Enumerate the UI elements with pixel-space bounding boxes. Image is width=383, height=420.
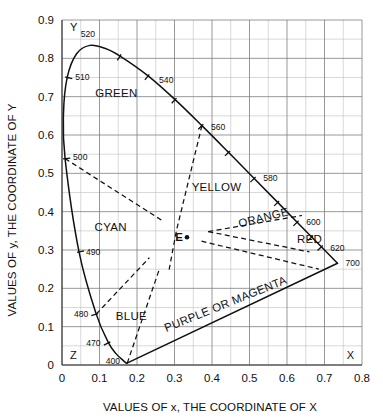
y-tick-label: 0.2 — [38, 282, 54, 294]
wavelength-label-480: 480 — [74, 309, 89, 319]
wavelength-label-400: 400 — [106, 356, 121, 366]
white-point-dot — [185, 235, 190, 240]
orange-red-divider — [208, 232, 309, 252]
wavelength-label-490: 490 — [86, 247, 101, 257]
x-tick-label: 0.3 — [167, 372, 183, 384]
corner-label-x: X — [347, 349, 355, 361]
wavelength-label-580: 580 — [263, 173, 278, 183]
corner-label-y: Y — [70, 21, 78, 33]
y-tick-label: 0.7 — [38, 91, 54, 103]
wavelength-label-500: 500 — [73, 152, 88, 162]
region-label-blue: BLUE — [116, 310, 147, 322]
region-label-cyan: CYAN — [95, 221, 127, 233]
region-label-magenta: PURPLE OR MAGENTA — [163, 274, 289, 334]
wavelength-label-520: 520 — [81, 29, 96, 39]
y-tick-label: 0.1 — [38, 321, 54, 333]
wavelength-label-470: 470 — [86, 338, 101, 348]
wavelength-tick-500 — [63, 158, 70, 159]
x-tick-label: 0.7 — [317, 372, 333, 384]
chromaticity-diagram-svg: 00.10.20.30.40.50.60.70.8 00.10.20.30.40… — [0, 0, 383, 420]
x-axis-title: VALUES OF x, THE COORDINATE OF X — [103, 401, 317, 413]
x-tick-label: 0.5 — [242, 372, 258, 384]
color-region-labels: GREENCYANBLUEYELLOWORANGEREDPURPLE OR MA… — [95, 87, 323, 334]
green-yellow-divider — [169, 126, 202, 271]
x-tick-label: 0.4 — [204, 372, 221, 384]
y-tick-label: 0.4 — [38, 206, 55, 218]
region-label-green: GREEN — [95, 87, 137, 99]
x-axis-tick-labels: 00.10.20.30.40.50.60.70.8 — [59, 372, 370, 384]
wavelength-label-560: 560 — [211, 122, 226, 132]
red-magenta-divider — [202, 241, 319, 269]
y-axis-title: VALUES OF y, THE COORDINATE OF Y — [6, 103, 18, 316]
x-tick-label: 0.1 — [92, 372, 108, 384]
x-tick-label: 0.2 — [129, 372, 145, 384]
region-label-red: RED — [297, 233, 322, 245]
wavelength-label-620: 620 — [330, 243, 345, 253]
x-tick-label: 0.6 — [279, 372, 295, 384]
x-tick-label: 0.8 — [354, 372, 370, 384]
x-tick-label: 0 — [59, 372, 65, 384]
y-tick-label: 0.5 — [38, 167, 54, 179]
y-axis-tick-labels: 00.10.20.30.40.50.60.70.80.9 — [38, 14, 55, 371]
wavelength-label-540: 540 — [159, 75, 174, 85]
cyan-blue-divider — [96, 258, 149, 314]
y-tick-label: 0.3 — [38, 244, 54, 256]
wavelength-label-700: 700 — [346, 258, 361, 268]
wavelength-label-600: 600 — [306, 217, 321, 227]
y-tick-label: 0.6 — [38, 129, 54, 141]
corner-label-z: Z — [70, 349, 77, 361]
y-tick-label: 0.8 — [38, 52, 54, 64]
region-label-yellow: YELLOW — [192, 181, 242, 193]
region-divider-lines — [65, 126, 319, 363]
equal-energy-point-e: E — [175, 231, 189, 243]
white-point-label: E — [175, 231, 183, 243]
cie-chromaticity-figure: 00.10.20.30.40.50.60.70.8 00.10.20.30.40… — [0, 0, 383, 420]
wavelength-label-510: 510 — [75, 72, 90, 82]
y-tick-label: 0.9 — [38, 14, 54, 26]
y-tick-label: 0 — [48, 359, 54, 371]
region-label-orange: ORANGE — [237, 205, 290, 229]
